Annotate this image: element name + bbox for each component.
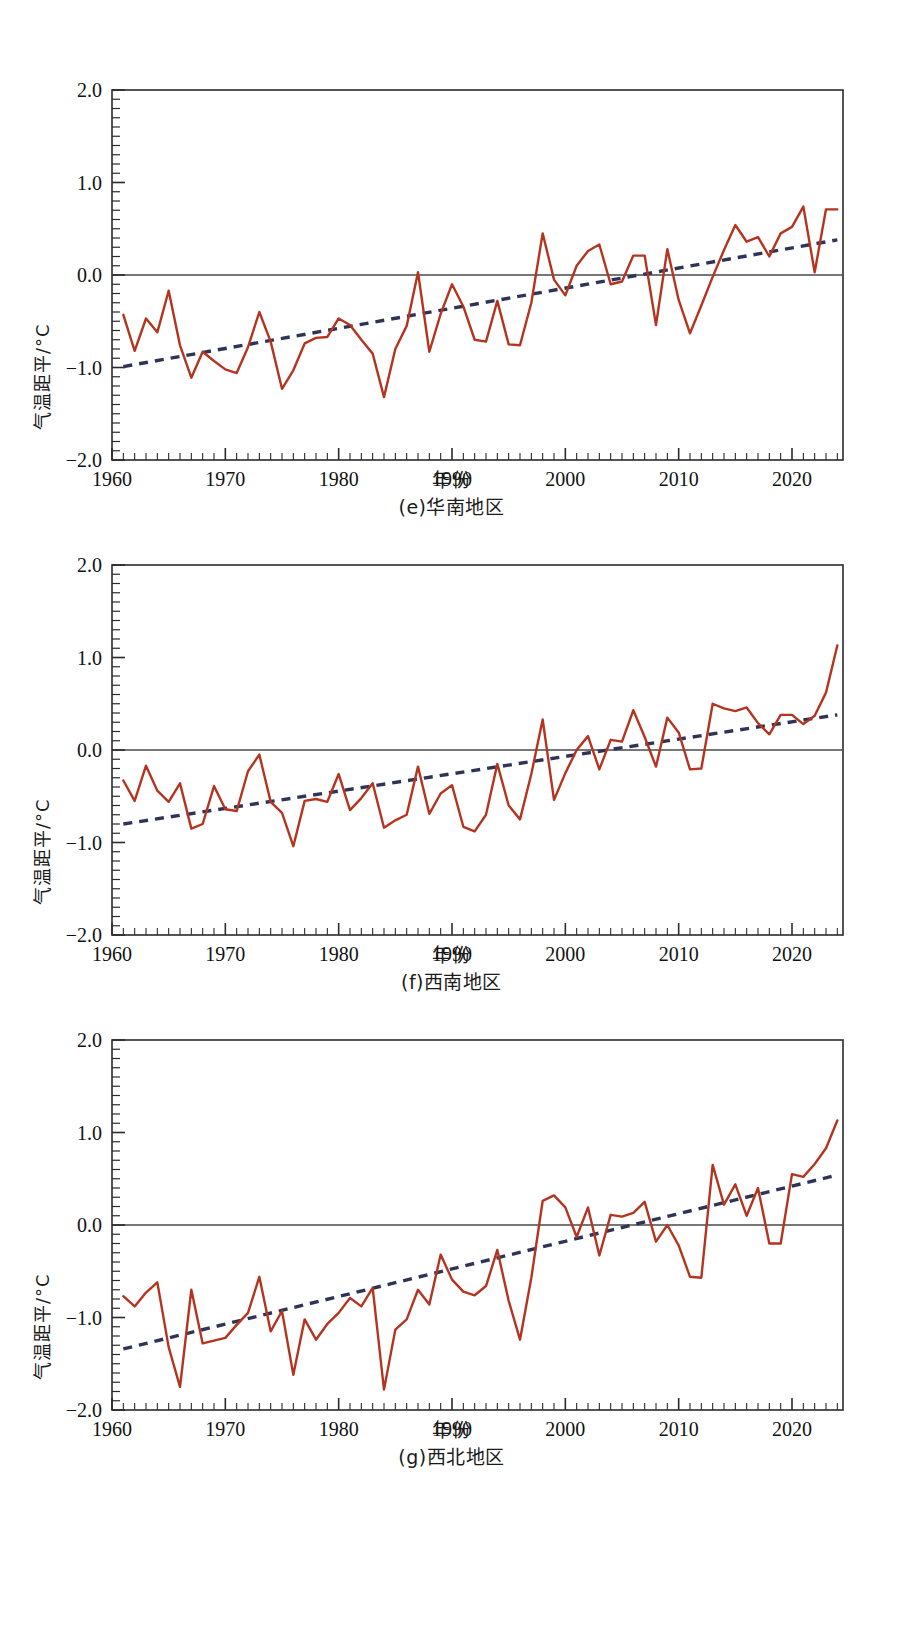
series-line — [123, 645, 837, 846]
chart-e: 2.01.00.0−1.0−2.019601970198019902000201… — [0, 60, 903, 490]
y-tick-label: −1.0 — [66, 832, 102, 854]
y-tick-label: 1.0 — [77, 1122, 102, 1144]
plot-area-e: 气温距平/°C 2.01.00.0−1.0−2.0196019701980199… — [0, 60, 903, 490]
trend-line — [123, 240, 837, 367]
series-line — [123, 207, 837, 398]
chart-g: 2.01.00.0−1.0−2.019601970198019902000201… — [0, 1010, 903, 1440]
y-tick-label: 0.0 — [77, 264, 102, 286]
chart-panel-e: 气温距平/°C 2.01.00.0−1.0−2.0196019701980199… — [0, 60, 903, 560]
y-tick-label: 2.0 — [77, 1029, 102, 1051]
y-tick-label: 2.0 — [77, 554, 102, 576]
y-tick-label: −1.0 — [66, 1307, 102, 1329]
figure-page: 气温距平/°C 2.01.00.0−1.0−2.0196019701980199… — [0, 0, 903, 1632]
y-tick-label: 0.0 — [77, 739, 102, 761]
x-axis-label: 年份 — [0, 1415, 903, 1442]
x-axis-label: 年份 — [0, 940, 903, 967]
chart-f: 2.01.00.0−1.0−2.019601970198019902000201… — [0, 535, 903, 965]
y-tick-label: 2.0 — [77, 79, 102, 101]
y-tick-label: 1.0 — [77, 172, 102, 194]
panel-caption-g: (g)西北地区 — [0, 1442, 903, 1469]
panel-caption-e: (e)华南地区 — [0, 492, 903, 519]
panel-caption-f: (f)西南地区 — [0, 967, 903, 994]
chart-panel-f: 气温距平/°C 2.01.00.0−1.0−2.0196019701980199… — [0, 535, 903, 1035]
x-axis-label: 年份 — [0, 465, 903, 492]
trend-line — [123, 1175, 837, 1349]
y-tick-label: −1.0 — [66, 357, 102, 379]
plot-area-g: 气温距平/°C 2.01.00.0−1.0−2.0196019701980199… — [0, 1010, 903, 1440]
y-tick-label: 0.0 — [77, 1214, 102, 1236]
chart-panel-g: 气温距平/°C 2.01.00.0−1.0−2.0196019701980199… — [0, 1010, 903, 1520]
trend-line — [123, 715, 837, 824]
plot-area-f: 气温距平/°C 2.01.00.0−1.0−2.0196019701980199… — [0, 535, 903, 965]
y-tick-label: 1.0 — [77, 647, 102, 669]
series-line — [123, 1120, 837, 1389]
